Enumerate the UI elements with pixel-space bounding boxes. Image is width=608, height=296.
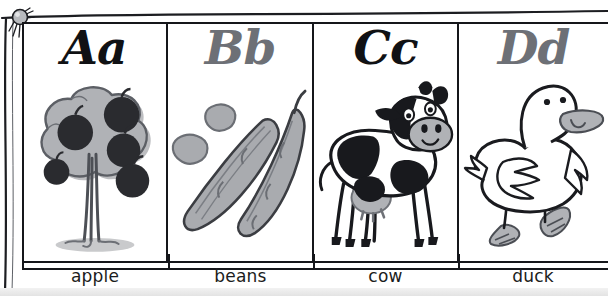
caption-duck: duck (458, 263, 608, 291)
chart-cell-duck[interactable]: Dd (459, 22, 608, 263)
letter-aa: Aa (22, 24, 166, 71)
letter-cc: Cc (314, 24, 457, 71)
chart-cell-beans[interactable]: Bb (168, 22, 314, 263)
chart-cell-apple[interactable]: Aa (22, 22, 168, 263)
cow-illustration (314, 76, 457, 260)
caption-row: apple beans cow duck (22, 263, 608, 291)
bean-pods-illustration (168, 76, 312, 260)
caption-cow: cow (313, 263, 458, 291)
alphabet-chart-poster: Aa (0, 0, 608, 296)
chart-cells: Aa (22, 22, 608, 263)
caption-beans: beans (168, 263, 313, 291)
caption-apple: apple (22, 263, 168, 291)
page-bottom-edge (0, 288, 608, 296)
letter-bb: Bb (168, 24, 312, 71)
duck-illustration (459, 76, 608, 260)
apple-tree-illustration (22, 76, 166, 260)
letter-dd: Dd (459, 24, 608, 71)
chart-cell-cow[interactable]: Cc (314, 22, 459, 263)
